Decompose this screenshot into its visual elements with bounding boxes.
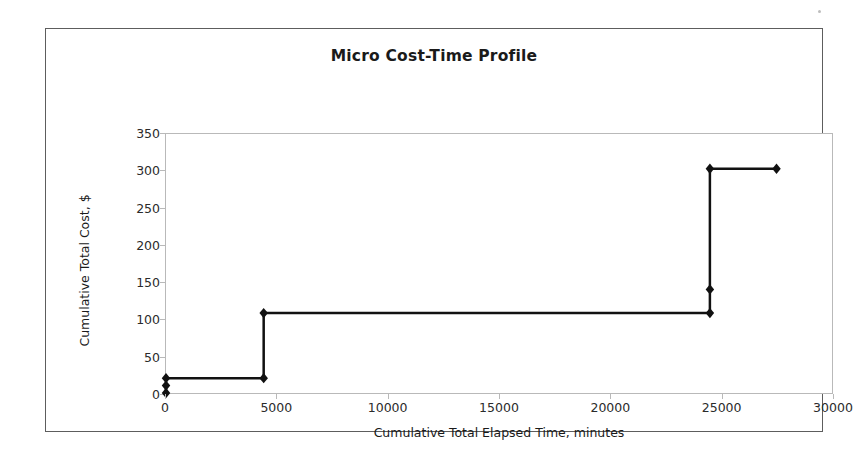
chart-title: Micro Cost-Time Profile: [46, 47, 822, 65]
scan-artifact-speck: [818, 10, 821, 13]
data-point-marker: [706, 284, 715, 294]
x-tick-label: 5000: [231, 400, 321, 415]
y-axis-tick-marks: [46, 133, 176, 394]
x-tick-mark: [722, 394, 723, 399]
x-tick-label: 15000: [454, 400, 544, 415]
scanned-page: Micro Cost-Time Profile Cumulative Total…: [0, 0, 865, 456]
x-tick-mark: [499, 394, 500, 399]
data-point-marker: [259, 373, 268, 383]
x-axis-title: Cumulative Total Elapsed Time, minutes: [165, 425, 833, 440]
plot-area: [165, 133, 833, 394]
x-tick-mark: [276, 394, 277, 399]
x-tick-mark: [165, 394, 166, 399]
x-tick-label: 20000: [565, 400, 655, 415]
x-tick-mark: [833, 394, 834, 399]
x-tick-label: 25000: [677, 400, 767, 415]
series-line: [166, 169, 776, 393]
chart-series-svg: [166, 134, 832, 393]
x-tick-label: 10000: [343, 400, 433, 415]
x-axis-tick-labels: 050001000015000200002500030000: [165, 400, 833, 420]
x-tick-label: 30000: [788, 400, 865, 415]
x-tick-mark: [610, 394, 611, 399]
x-tick-mark: [388, 394, 389, 399]
chart-frame: Micro Cost-Time Profile Cumulative Total…: [45, 28, 823, 432]
x-tick-label: 0: [120, 400, 210, 415]
data-point-marker: [706, 164, 715, 174]
data-point-marker: [259, 308, 268, 318]
data-point-marker: [772, 164, 781, 174]
data-point-marker: [706, 308, 715, 318]
